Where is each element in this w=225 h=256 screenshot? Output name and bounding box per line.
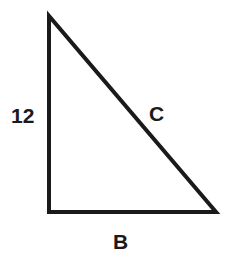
hypotenuse-label: C <box>149 103 164 124</box>
base-label: B <box>113 231 128 252</box>
triangle-shape <box>0 0 225 256</box>
vertical-leg-label: 12 <box>11 105 34 126</box>
right-triangle-figure: 12 C B <box>0 0 225 256</box>
triangle-outline <box>49 16 216 212</box>
